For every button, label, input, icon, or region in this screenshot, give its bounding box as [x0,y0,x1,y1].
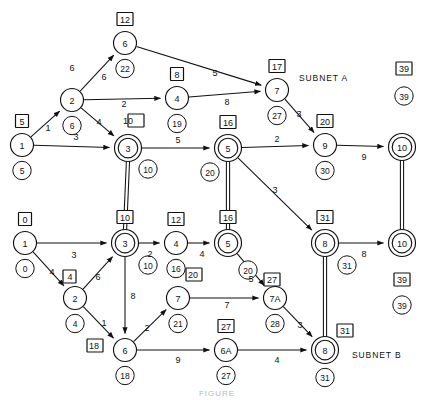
late-value-A1: 5 [20,166,25,176]
edge-label-B3-B6: 8 [130,291,135,301]
late-value-A7: 27 [272,111,282,121]
late-value-A4: 19 [172,119,182,129]
node-B6A[interactable]: 6A [215,339,238,362]
node-B7[interactable]: 7 [167,287,190,310]
late-value-A9: 30 [320,166,330,176]
edge-B2-B6 [83,307,113,338]
node-B6[interactable]: 6 [114,339,137,362]
edge-label-B7-B7A: 7 [224,300,229,310]
edge-label-A4-A7: 8 [224,97,229,107]
node-label-B7A: 7A [269,294,280,304]
node-label-B8: 8 [322,239,327,249]
node-B1[interactable]: 1 [14,232,37,255]
edge-label-A2-A3: 4 [96,117,101,127]
node-label-A9: 9 [322,141,327,151]
edge-label-A5-B8: 3 [272,185,277,195]
early-value-B6A: 27 [221,322,231,332]
late-value-B10: 39 [397,301,407,311]
node-label-A7: 7 [274,86,279,96]
node-label-B8b: 8 [322,346,327,356]
late-value-A6: 22 [120,64,130,74]
edge-label-B2-B3: 6 [95,272,100,282]
early-value-B8b: 31 [340,326,350,336]
edge-label-A1-A2: 1 [45,123,50,133]
edge-label-A2-A4: 2 [121,99,126,109]
early-value-B7: 20 [188,270,198,280]
node-B5[interactable]: 5 [215,230,242,257]
node-A10[interactable]: 10 [389,134,416,161]
node-A7[interactable]: 7 [266,79,289,102]
edge-A6-A7 [136,47,261,86]
node-label-B6A: 6A [220,346,231,356]
early-value-B7A: 27 [267,275,277,285]
edge-label-B2-B6: 1 [101,318,106,328]
subnet-a-label: SUBNET A [299,73,348,83]
node-B4[interactable]: 4 [165,232,188,255]
edge-B1-B2 [33,252,64,286]
node-label-B7: 7 [175,294,180,304]
figure-caption: FIGURE [0,389,434,400]
node-A5[interactable]: 5 [215,135,242,162]
edge-label-B7A-B8b: 3 [297,320,302,330]
node-B2[interactable]: 2 [64,287,87,310]
early-value-A4: 8 [174,70,179,80]
early-value-A6: 12 [120,15,130,25]
node-B8b[interactable]: 8 [312,337,339,364]
early-value-B3: 10 [120,213,130,223]
early-value-B4: 12 [171,215,181,225]
early-value-B10: 39 [397,275,407,285]
node-label-A1: 1 [19,141,24,151]
node-B7A[interactable]: 7A [264,287,287,310]
node-A1[interactable]: 1 [11,134,34,157]
late-value-B6A: 27 [221,371,231,381]
late-value-A10: 39 [399,92,409,102]
edge-label-B1-B3: 3 [71,250,76,260]
edge-label-B1-B2: 4 [49,267,54,277]
node-A3[interactable]: 3 [115,135,142,162]
early-value-B1: 0 [22,215,27,225]
node-A9[interactable]: 9 [314,134,337,157]
early-value-B5: 16 [223,213,233,223]
early-value-A3: 10 [123,116,133,126]
node-A2[interactable]: 2 [61,89,84,112]
late-value-B4: 16 [171,264,181,274]
node-label-B3: 3 [122,239,127,249]
node-B10[interactable]: 10 [389,230,416,257]
late-value-B2: 4 [73,319,78,329]
node-label-A5: 5 [225,144,230,154]
node-B3[interactable]: 3 [112,230,139,257]
late-value-B6: 18 [120,371,130,381]
edge-A9-A10 [337,145,384,146]
edge-B6-B7 [134,310,167,342]
early-value-B6: 18 [89,341,99,351]
late-value-B7: 21 [173,319,183,329]
node-label-B1: 1 [22,239,27,249]
late-value-B3: 10 [143,261,153,271]
edge-label-A1-A3: 3 [73,132,78,142]
node-label-B4: 4 [173,239,178,249]
edge-label-B4-B5: 4 [199,249,204,259]
early-value-A9: 20 [320,117,330,127]
node-A4[interactable]: 4 [166,87,189,110]
edge-A2-A6 [80,55,114,91]
late-value-A3: 10 [143,165,153,175]
edge-label-A6-A7: 5 [212,68,217,78]
edge-label-B3-B4: 2 [147,249,152,259]
node-label-B2: 2 [72,294,77,304]
edge-label-B8-B10: 8 [361,249,366,259]
node-A6[interactable]: 6 [114,32,137,55]
subnet-b-label: SUBNET B [352,350,402,360]
node-label-A6: 6 [122,39,127,49]
figure-canvas: 1552661222310104819516207172792030103939… [0,0,434,400]
network-diagram: 1552661222310104819516207172792030103939… [0,0,434,400]
node-label-B5: 5 [225,239,230,249]
late-value-A5: 20 [205,168,215,178]
early-value-A10: 39 [399,64,409,74]
late-value-B8b: 31 [320,373,330,383]
edge-label-B6A-B8b: 4 [274,355,279,365]
node-label-A4: 4 [174,94,179,104]
edge-label-B6-B7: 2 [144,323,149,333]
node-label-B6: 6 [122,346,127,356]
node-B8[interactable]: 8 [312,230,339,257]
edge-label-B5-B7A: 5 [248,274,253,284]
